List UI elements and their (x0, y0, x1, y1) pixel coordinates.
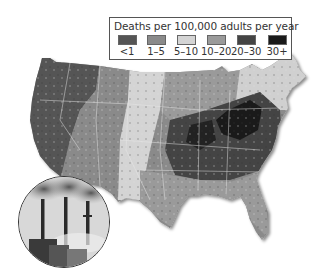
legend-swatch (207, 35, 226, 45)
legend-label: 30+ (262, 46, 292, 57)
legend-label: 20–30 (231, 46, 261, 57)
legend-swatch (268, 35, 287, 45)
legend-swatch (118, 35, 137, 45)
legend: Deaths per 100,000 adults per year <1 1–… (109, 17, 292, 60)
legend-item-lt1: <1 (112, 35, 142, 57)
legend-item-5-10: 5–10 (171, 35, 201, 57)
legend-swatch (177, 35, 196, 45)
legend-label: 10–20 (201, 46, 231, 57)
legend-item-1-5: 1–5 (141, 35, 171, 57)
smokestack-illustration (19, 177, 109, 267)
legend-item-30plus: 30+ (262, 35, 292, 57)
legend-title: Deaths per 100,000 adults per year (114, 20, 299, 32)
smokestack-photo-inset (18, 176, 110, 268)
legend-item-20-30: 20–30 (231, 35, 261, 57)
legend-swatch (237, 35, 256, 45)
legend-swatch (147, 35, 166, 45)
legend-label: 1–5 (141, 46, 171, 57)
legend-label: 5–10 (171, 46, 201, 57)
legend-label: <1 (112, 46, 142, 57)
legend-item-10-20: 10–20 (201, 35, 231, 57)
